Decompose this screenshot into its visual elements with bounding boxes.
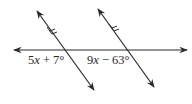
angle-label-right: 9x − 63° — [87, 54, 130, 67]
parallel-mark-left-icon — [47, 27, 57, 34]
parallel-mark-right-icon — [109, 24, 119, 31]
geometry-diagram — [0, 0, 192, 104]
right-parallel-line — [98, 9, 154, 87]
angle-label-left: 5x + 7° — [28, 54, 64, 67]
constant: + 7° — [40, 53, 65, 67]
constant: − 63° — [99, 53, 130, 67]
